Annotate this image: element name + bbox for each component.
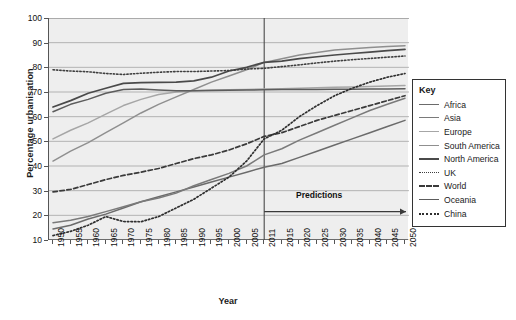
x-tick-mark [228,240,229,244]
x-tick-mark [369,240,370,244]
legend-swatch-icon [419,127,439,137]
y-tick-label: 20 [16,210,42,220]
x-tick-mark [105,240,106,244]
x-tick-mark [334,240,335,244]
x-tick-label: 1985 [179,228,189,247]
x-tick-mark [193,240,194,244]
legend-items: AfricaAsiaEuropeSouth AmericaNorth Ameri… [419,98,501,220]
series-canvas [49,18,409,240]
x-tick-mark [246,240,247,244]
legend-swatch-icon [419,195,439,205]
x-tick-mark [298,240,299,244]
x-tick-mark [70,240,71,244]
legend-item-uk[interactable]: UK [419,166,501,180]
legend-box: Key AfricaAsiaEuropeSouth AmericaNorth A… [412,79,506,227]
x-tick-label: 1960 [91,228,101,247]
x-tick-label: 1980 [162,228,172,247]
y-tick-label: 100 [16,13,42,23]
predictions-annotation-label: Predictions [296,190,342,200]
series-line-africa [53,120,405,229]
legend-swatch-icon [419,181,439,191]
y-tick-label: 50 [16,136,42,146]
legend-item-label: China [444,209,466,219]
x-tick-label: 1950 [56,228,66,247]
x-tick-label: 2030 [338,228,348,247]
x-tick-mark [316,240,317,244]
legend-item-label: Oceania [444,195,476,205]
x-tick-mark [140,240,141,244]
y-tick-label: 10 [16,235,42,245]
legend-item-label: North America [444,154,498,164]
x-tick-mark [122,240,123,244]
y-tick-label: 30 [16,186,42,196]
x-tick-mark [386,240,387,244]
legend-item-label: World [444,181,466,191]
x-tick-mark [281,240,282,244]
x-tick-mark [175,240,176,244]
legend-item-world[interactable]: World [419,180,501,194]
x-tick-label: 2035 [355,228,365,247]
legend-swatch-icon [419,209,439,219]
legend-swatch-icon [419,154,439,164]
x-tick-label: 2025 [320,228,330,247]
legend-item-oceania[interactable]: Oceania [419,193,501,207]
legend-item-label: UK [444,168,456,178]
legend-item-label: Asia [444,113,461,123]
y-tick-label: 90 [16,38,42,48]
x-tick-label: 2040 [373,228,383,247]
legend-item-label: Europe [444,127,472,137]
legend-item-africa[interactable]: Africa [419,98,501,112]
x-tick-label: 2005 [250,228,260,247]
x-tick-label: 2045 [390,228,400,247]
x-tick-label: 1975 [144,228,154,247]
y-tick-label: 40 [16,161,42,171]
x-tick-mark [210,240,211,244]
x-tick-label: 1965 [109,228,119,247]
legend-item-label: South America [444,141,500,151]
legend-swatch-icon [419,141,439,151]
x-tick-label: 1955 [74,228,84,247]
x-tick-mark [158,240,159,244]
legend-item-asia[interactable]: Asia [419,112,501,126]
x-tick-label: 1995 [214,228,224,247]
x-axis-title: Year [48,296,408,306]
legend-swatch-icon [419,113,439,123]
predictions-arrow-head [400,208,406,214]
x-tick-mark [404,240,405,244]
x-tick-label: 1970 [126,228,136,247]
y-tick-mark [44,240,48,241]
x-tick-mark [351,240,352,244]
legend-item-label: Africa [444,100,466,110]
x-tick-label: 2020 [302,228,312,247]
x-tick-label: 1990 [197,228,207,247]
x-tick-label: 2000 [232,228,242,247]
legend-swatch-icon [419,168,439,178]
series-line-south-america [53,46,405,161]
x-tick-label: 2011 [267,229,277,247]
legend-item-north-america[interactable]: North America [419,152,501,166]
series-line-north-america [53,49,405,107]
x-tick-label: 2050 [408,228,418,247]
plot-area [48,18,408,240]
legend-swatch-icon [419,100,439,110]
legend-item-europe[interactable]: Europe [419,125,501,139]
x-tick-mark [87,240,88,244]
legend-item-china[interactable]: China [419,207,501,221]
legend-title: Key [419,85,501,95]
chart-figure: Percentage urbanisation Year 10090807060… [0,0,516,320]
legend-item-south-america[interactable]: South America [419,139,501,153]
y-tick-label: 70 [16,87,42,97]
y-tick-label: 60 [16,112,42,122]
x-tick-mark [263,240,264,244]
x-tick-label: 2015 [285,228,295,247]
y-tick-label: 80 [16,62,42,72]
x-tick-mark [52,240,53,244]
